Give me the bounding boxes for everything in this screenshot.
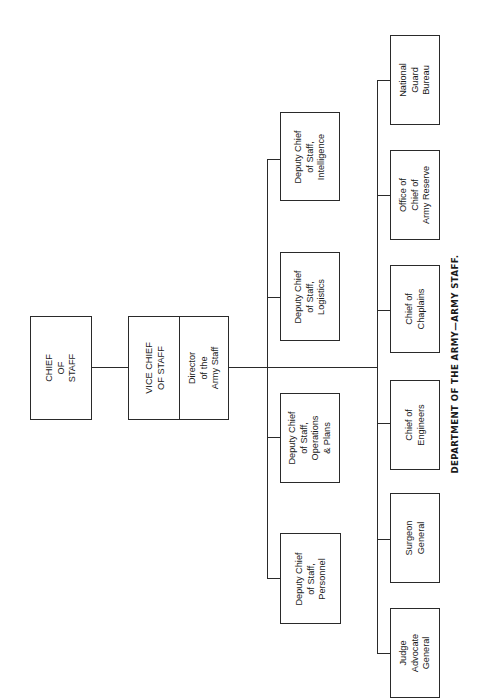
connector-main-horizontal	[229, 367, 378, 368]
trunk-deputy-chiefs	[267, 159, 268, 579]
army-reserve-box: Office of Chief of Army Reserve	[390, 150, 440, 240]
dcs-personnel-box: Deputy Chief of Staff, Personnel	[280, 533, 341, 624]
chief-of-staff-label: CHIEF OF STAFF	[44, 354, 79, 382]
national-guard-box: National Guard Bureau	[390, 35, 440, 125]
chaplains-label: Chief of Chaplains	[404, 289, 427, 330]
judge-advocate-box: Judge Advocate General	[390, 608, 440, 698]
branch-judge-advocate	[377, 653, 390, 654]
national-guard-label: National Guard Bureau	[398, 63, 433, 97]
branch-logistics	[267, 297, 280, 298]
surgeon-general-box: Surgeon General	[390, 493, 440, 583]
engineers-box: Chief of Engineers	[390, 380, 440, 470]
vice-chief-label: VICE CHIEF OF STAFF	[143, 342, 166, 394]
chaplains-box: Chief of Chaplains	[390, 265, 440, 353]
branch-engineers	[377, 423, 390, 424]
vice-chief-box: VICE CHIEF OF STAFF Director of the Army…	[128, 316, 229, 420]
dcs-operations-box: Deputy Chief of Staff, Operations & Plan…	[280, 393, 340, 483]
figure-caption: DEPARTMENT OF THE ARMY—ARMY STAFF.	[450, 255, 460, 474]
engineers-label: Chief of Engineers	[404, 404, 427, 445]
surgeon-general-label: Surgeon General	[404, 521, 427, 556]
dcs-personnel-label: Deputy Chief of Staff, Personnel	[293, 552, 328, 605]
dcs-intelligence-label: Deputy Chief of Staff, Intelligence	[293, 130, 328, 183]
connector-chief-vice	[92, 367, 128, 368]
dcs-intelligence-box: Deputy Chief of Staff, Intelligence	[280, 112, 340, 201]
branch-army-reserve	[377, 195, 390, 196]
branch-chaplains	[377, 310, 390, 311]
dcs-logistics-box: Deputy Chief of Staff, Logistics	[280, 252, 340, 341]
branch-personnel	[267, 578, 280, 579]
dcs-operations-label: Deputy Chief of Staff, Operations & Plan…	[287, 411, 333, 464]
trunk-special-staff	[377, 80, 378, 654]
branch-national-guard	[377, 80, 390, 81]
chief-of-staff-box: CHIEF OF STAFF	[30, 316, 92, 420]
dcs-logistics-label: Deputy Chief of Staff, Logistics	[293, 270, 328, 323]
branch-operations	[267, 437, 280, 438]
director-army-staff-label: Director of the Army Staff	[187, 347, 222, 390]
army-reserve-label: Office of Chief of Army Reserve	[398, 166, 433, 224]
branch-intelligence	[267, 159, 280, 160]
judge-advocate-label: Judge Advocate General	[398, 634, 433, 672]
branch-surgeon-general	[377, 539, 390, 540]
